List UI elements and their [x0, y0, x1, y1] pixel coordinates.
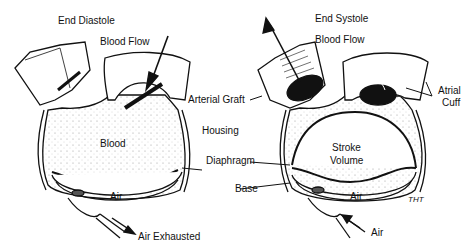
label-diaphragm: Diaphragm [206, 156, 255, 166]
left-pump [15, 36, 190, 238]
label-air-in: Air [371, 228, 383, 238]
label-air-left: Air [110, 192, 122, 202]
label-volume: Volume [330, 156, 363, 166]
label-blood-flow-right: Blood Flow [315, 35, 364, 45]
pump-diagram: End Diastole Blood Flow Blood Air Air Ex… [0, 0, 475, 251]
artist-signature: THT [408, 196, 424, 204]
label-housing: Housing [202, 126, 239, 136]
title-end-diastole: End Diastole [58, 16, 115, 26]
label-blood-flow-left: Blood Flow [100, 37, 149, 47]
label-base: Base [235, 184, 258, 194]
label-arterial-graft: Arterial Graft [188, 95, 245, 105]
label-cuff: Cuff [442, 98, 460, 108]
label-air-right: Air [350, 192, 362, 202]
label-stroke: Stroke [332, 143, 361, 153]
label-blood: Blood [100, 139, 126, 149]
label-air-exhausted: Air Exhausted [138, 232, 200, 242]
title-end-systole: End Systole [315, 14, 368, 24]
right-pump [258, 18, 428, 238]
label-atrial: Atrial [438, 86, 461, 96]
